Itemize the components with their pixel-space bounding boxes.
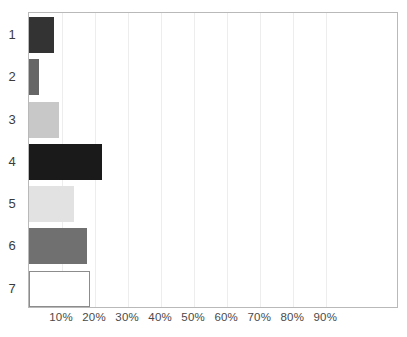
bar-row bbox=[29, 271, 397, 307]
y-axis-label-3: 3 bbox=[9, 113, 16, 126]
bar-row bbox=[29, 228, 397, 264]
bar-row bbox=[29, 102, 397, 138]
bar-7[interactable] bbox=[29, 271, 90, 307]
bar-2[interactable] bbox=[29, 59, 39, 95]
x-axis-tick-40pct: 40% bbox=[148, 312, 172, 324]
x-axis-labels: 10%20%30%40%50%60%70%80%90% bbox=[0, 312, 407, 332]
y-axis-label-5: 5 bbox=[9, 197, 16, 210]
bar-4[interactable] bbox=[29, 144, 102, 180]
x-axis-tick-30pct: 30% bbox=[115, 312, 139, 324]
y-axis-label-4: 4 bbox=[9, 155, 16, 168]
x-axis-tick-50pct: 50% bbox=[181, 312, 205, 324]
x-axis-tick-60pct: 60% bbox=[214, 312, 238, 324]
bars-layer bbox=[29, 13, 397, 307]
x-axis-tick-80pct: 80% bbox=[280, 312, 304, 324]
x-axis-tick-10pct: 10% bbox=[49, 312, 73, 324]
bar-5[interactable] bbox=[29, 186, 74, 222]
bar-row bbox=[29, 59, 397, 95]
x-axis-tick-70pct: 70% bbox=[247, 312, 271, 324]
bar-row bbox=[29, 186, 397, 222]
bar-row bbox=[29, 144, 397, 180]
y-axis-labels: 1234567 bbox=[0, 12, 26, 308]
bar-row bbox=[29, 17, 397, 53]
x-axis-tick-20pct: 20% bbox=[82, 312, 106, 324]
bar-chart: 1234567 10%20%30%40%50%60%70%80%90% bbox=[0, 0, 407, 337]
bar-1[interactable] bbox=[29, 17, 54, 53]
bar-6[interactable] bbox=[29, 228, 87, 264]
y-axis-label-2: 2 bbox=[9, 70, 16, 83]
y-axis-label-6: 6 bbox=[9, 239, 16, 252]
y-axis-label-1: 1 bbox=[9, 28, 16, 41]
x-axis-tick-90pct: 90% bbox=[314, 312, 338, 324]
plot-area bbox=[28, 12, 398, 308]
y-axis-label-7: 7 bbox=[9, 282, 16, 295]
bar-3[interactable] bbox=[29, 102, 59, 138]
